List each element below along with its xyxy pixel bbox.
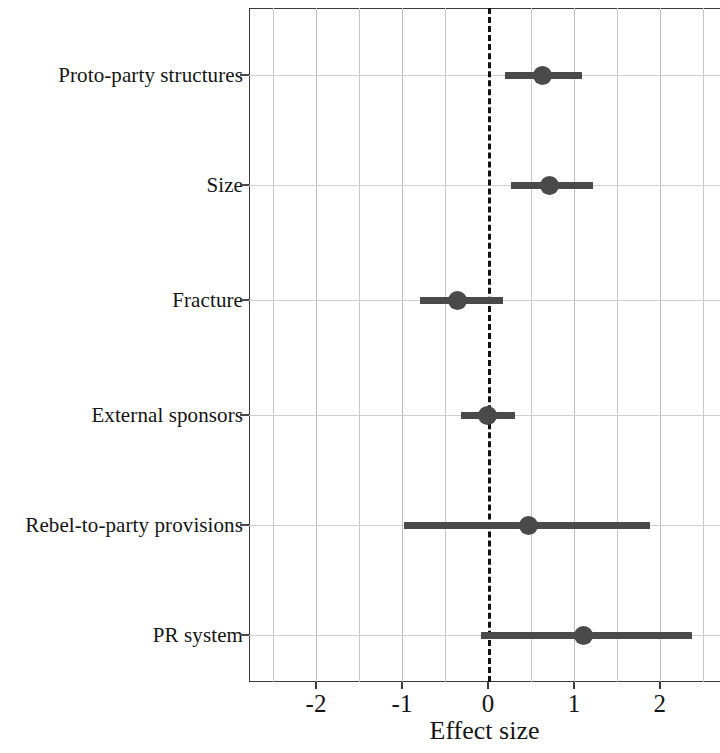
plot-frame <box>249 8 720 682</box>
y-axis-tick <box>240 299 249 301</box>
x-axis-tick-label: 1 <box>568 691 581 716</box>
x-axis-tick-label: -1 <box>392 691 413 716</box>
gridline-vertical <box>402 8 403 682</box>
x-axis-tick-label: 2 <box>654 691 667 716</box>
zero-reference-line <box>488 8 491 682</box>
point-estimate-marker <box>448 291 467 310</box>
category-label-pr-system: PR system <box>153 625 243 646</box>
gridline-vertical <box>574 8 575 682</box>
category-label-size: Size <box>206 175 243 196</box>
category-label-column: Proto-party structures Size Fracture Ext… <box>0 0 249 700</box>
gridline-horizontal <box>249 185 720 186</box>
x-axis-title: Effect size <box>249 716 720 746</box>
category-label-fracture: Fracture <box>172 290 243 311</box>
x-axis-tick <box>573 682 575 689</box>
x-axis-tick <box>315 682 317 689</box>
gridline-vertical <box>703 8 704 682</box>
gridline-vertical <box>273 8 274 682</box>
category-label-external-sponsors: External sponsors <box>91 405 243 426</box>
x-axis-tick <box>659 682 661 689</box>
y-axis-tick <box>240 634 249 636</box>
x-axis-tick <box>401 682 403 689</box>
category-label-proto-party-structures: Proto-party structures <box>58 65 243 86</box>
point-estimate-marker <box>533 66 552 85</box>
point-estimate-marker <box>519 516 538 535</box>
point-estimate-marker <box>478 406 497 425</box>
gridline-horizontal <box>249 75 720 76</box>
point-estimate-marker <box>574 626 593 645</box>
y-axis-tick <box>240 524 249 526</box>
gridline-vertical <box>359 8 360 682</box>
gridline-vertical <box>531 8 532 682</box>
gridline-vertical <box>316 8 317 682</box>
y-axis-tick <box>240 184 249 186</box>
point-estimate-marker <box>540 176 559 195</box>
x-axis-tick-label: -2 <box>306 691 327 716</box>
gridline-vertical <box>660 8 661 682</box>
y-axis-tick <box>240 414 249 416</box>
category-label-rebel-to-party-provisions: Rebel-to-party provisions <box>25 515 243 536</box>
forest-plot-figure: Proto-party structures Size Fracture Ext… <box>0 0 720 753</box>
x-axis-tick-label: 0 <box>482 691 495 716</box>
gridline-vertical <box>617 8 618 682</box>
plot-area <box>249 8 720 682</box>
y-axis-tick <box>240 74 249 76</box>
x-axis-tick <box>487 682 489 689</box>
gridline-vertical <box>445 8 446 682</box>
